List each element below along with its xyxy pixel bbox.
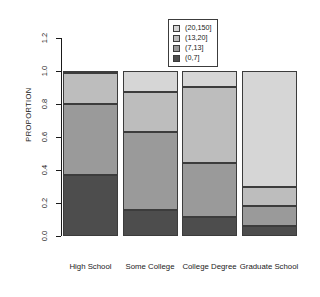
- bar-segment: [182, 71, 237, 87]
- y-axis-tick: [56, 203, 61, 204]
- legend-item-label: (13,20]: [185, 34, 207, 42]
- y-axis-tick-label: 0.2: [36, 199, 54, 207]
- bar-segment: [242, 71, 297, 187]
- bar-segment: [123, 71, 178, 92]
- bar-segment: [63, 73, 118, 104]
- y-axis-line: [61, 38, 62, 236]
- bar-segment: [123, 132, 178, 210]
- y-axis-tick-label: 0.4: [36, 166, 54, 174]
- bar-segment: [182, 163, 237, 217]
- legend-item-label: (20,150]: [185, 24, 211, 32]
- legend-item: (20,150]: [173, 23, 211, 33]
- y-axis-tick-label: 1.2: [36, 34, 54, 42]
- bar-segment: [242, 226, 297, 236]
- y-axis-tick: [56, 170, 61, 171]
- bar-college-degree: [182, 71, 237, 236]
- legend-item-label: (0,7]: [185, 54, 199, 62]
- y-axis-tick-label: 1.0: [36, 67, 54, 75]
- bar-segment: [242, 187, 297, 206]
- legend-item: (0,7]: [173, 53, 211, 63]
- bar-segment: [63, 71, 118, 73]
- legend-item-label: (7,13]: [185, 44, 203, 52]
- y-axis-tick-label-text: 0.8: [41, 99, 49, 109]
- y-axis-tick-label: 0.0: [36, 232, 54, 240]
- y-axis-tick-label-text: 0.2: [41, 198, 49, 208]
- legend-swatch-icon: [173, 25, 180, 32]
- bar-segment: [182, 87, 237, 163]
- y-axis-tick-label-text: 0.4: [41, 165, 49, 175]
- bar-segment: [182, 217, 237, 236]
- bar-some-college: [123, 71, 178, 236]
- plot-area: 0.00.20.40.60.81.01.2 PROPORTION High Sc…: [0, 0, 320, 297]
- y-axis-label: PROPORTION: [24, 80, 33, 150]
- legend-swatch-icon: [173, 35, 180, 42]
- y-axis-tick: [56, 236, 61, 237]
- x-axis-label: Graduate School: [230, 262, 309, 271]
- legend-swatch-icon: [173, 45, 180, 52]
- legend-item: (13,20]: [173, 33, 211, 43]
- legend-item: (7,13]: [173, 43, 211, 53]
- y-axis-tick-label-text: 1.2: [41, 33, 49, 43]
- y-axis-tick-label-text: 0.0: [41, 231, 49, 241]
- stacked-bar-chart: 0.00.20.40.60.81.01.2 PROPORTION High Sc…: [0, 0, 320, 297]
- bar-segment: [242, 206, 297, 226]
- bar-high-school: [63, 71, 118, 236]
- y-axis-tick-label-text: 1.0: [41, 66, 49, 76]
- y-axis-tick-label: 0.8: [36, 100, 54, 108]
- y-axis-tick-label-text: 0.6: [41, 132, 49, 142]
- legend-swatch-icon: [173, 55, 180, 62]
- bar-segment: [63, 175, 118, 236]
- bar-segment: [123, 210, 178, 236]
- bar-segment: [63, 104, 118, 175]
- y-axis-tick: [56, 38, 61, 39]
- bar-segment: [123, 92, 178, 132]
- y-axis-tick: [56, 71, 61, 72]
- bar-graduate-school: [242, 71, 297, 236]
- y-axis-tick: [56, 137, 61, 138]
- y-axis-tick: [56, 104, 61, 105]
- y-axis-tick-label: 0.6: [36, 133, 54, 141]
- legend: (20,150](13,20](7,13](0,7]: [168, 19, 218, 67]
